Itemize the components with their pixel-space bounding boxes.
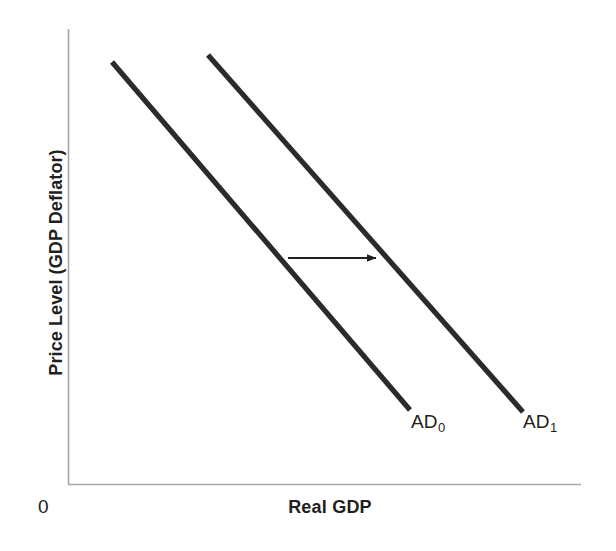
x-axis-title: Real GDP <box>250 497 410 518</box>
origin-label: 0 <box>38 496 49 518</box>
ad0-label-text: AD <box>411 411 437 432</box>
ad1-label-text: AD <box>523 411 549 432</box>
ad0-label-subscript: 0 <box>438 420 445 435</box>
y-axis-title: Price Level (GDP Deflator) <box>46 103 67 423</box>
ad0-curve-label: AD0 <box>411 411 445 433</box>
ad1-curve-label: AD1 <box>523 411 557 433</box>
aggregate-demand-chart: Price Level (GDP Deflator) Real GDP 0 AD… <box>0 0 616 551</box>
ad1-label-subscript: 1 <box>550 420 557 435</box>
plot-canvas <box>0 0 616 551</box>
